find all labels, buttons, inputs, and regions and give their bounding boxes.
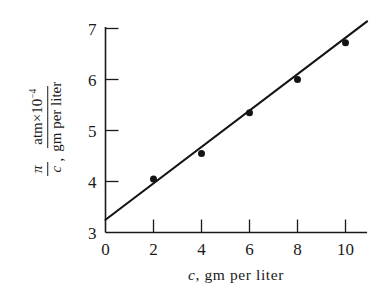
data-point-0 [150, 175, 157, 182]
y-tick-label-3: 3 [88, 224, 97, 243]
data-point-2 [246, 109, 253, 116]
data-point-4 [342, 39, 349, 46]
tick-marks [106, 29, 346, 233]
plot-area: 345670246810 [0, 0, 390, 301]
fit-line [106, 21, 368, 219]
x-tick-label-10: 10 [337, 240, 354, 259]
data-points [150, 39, 349, 182]
x-tick-label-0: 0 [101, 240, 110, 259]
x-tick-label-8: 8 [293, 240, 302, 259]
y-tick-label-6: 6 [88, 71, 97, 90]
tick-labels: 345670246810 [88, 20, 354, 259]
x-axis-label: c, gm per liter [96, 266, 376, 284]
y-tick-label-7: 7 [88, 20, 97, 39]
axes [106, 27, 368, 233]
x-axis-label-rest: , gm per liter [196, 266, 284, 283]
x-tick-label-2: 2 [149, 240, 158, 259]
x-tick-label-4: 4 [197, 240, 206, 259]
chart-figure: π c , atm×10−4 gm per liter 345670246810… [0, 0, 390, 301]
y-tick-label-5: 5 [88, 122, 97, 141]
x-axis-label-symbol: c [188, 266, 195, 283]
x-tick-label-6: 6 [245, 240, 254, 259]
data-point-3 [294, 76, 301, 83]
trend-line [106, 21, 368, 219]
y-tick-label-4: 4 [88, 173, 97, 192]
data-point-1 [198, 150, 205, 157]
